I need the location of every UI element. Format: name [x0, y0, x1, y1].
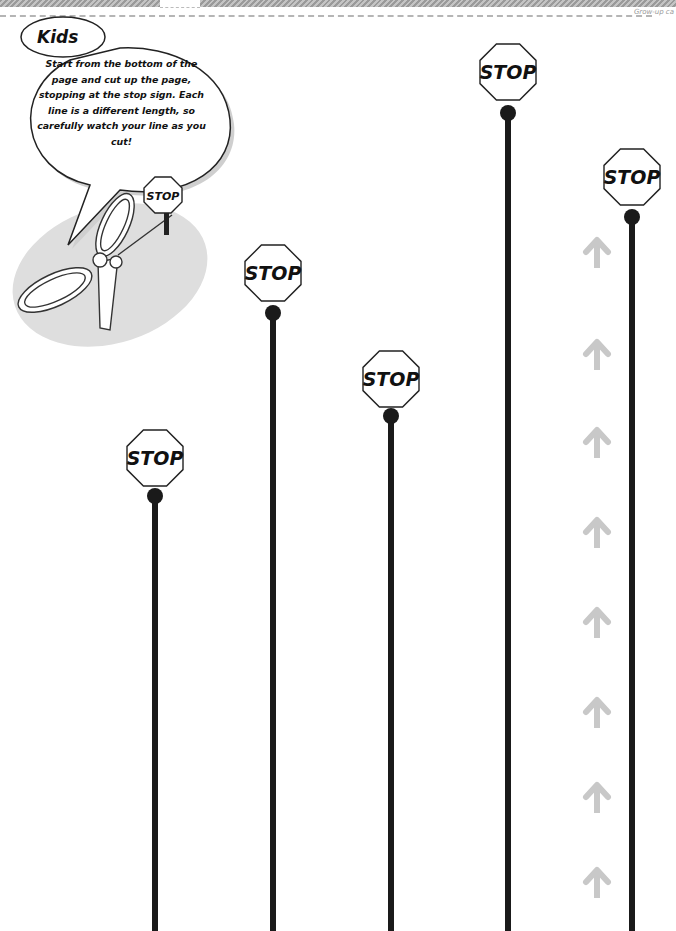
up-arrow-icon [586, 785, 608, 813]
stop-sign-label: STOP [604, 166, 661, 188]
mascot-stop-text: STOP [147, 190, 180, 203]
up-arrow-icon [586, 520, 608, 548]
stop-dot [147, 488, 163, 504]
up-arrow-icon [586, 610, 608, 638]
up-arrow-icon [586, 700, 608, 728]
kids-title: Kids [37, 27, 78, 47]
stop-sign-label: STOP [363, 368, 420, 390]
up-arrow-icon [586, 240, 608, 268]
cut-line-1: STOP [127, 430, 184, 931]
up-arrow-icon [586, 430, 608, 458]
stop-sign-label: STOP [245, 262, 302, 284]
cut-line-5: STOP [604, 149, 661, 931]
stop-dot [500, 105, 516, 121]
cut-line[interactable] [505, 113, 511, 931]
cut-line-3: STOP [363, 351, 420, 931]
stop-dot [265, 305, 281, 321]
up-arrow-icon [586, 342, 608, 370]
stop-sign-label: STOP [480, 61, 537, 83]
stop-dot [624, 209, 640, 225]
up-arrow-icon [586, 870, 608, 898]
cut-line[interactable] [388, 416, 394, 931]
guide-arrows [586, 240, 608, 898]
cut-line-4: STOP [480, 44, 537, 931]
instructions-text: Start from the bottom of the page and cu… [34, 56, 209, 149]
stop-dot [383, 408, 399, 424]
stop-sign-label: STOP [127, 447, 184, 469]
cut-line[interactable] [270, 313, 276, 931]
cut-line[interactable] [152, 496, 158, 931]
cut-line[interactable] [629, 217, 635, 931]
cut-line-2: STOP [245, 245, 302, 931]
